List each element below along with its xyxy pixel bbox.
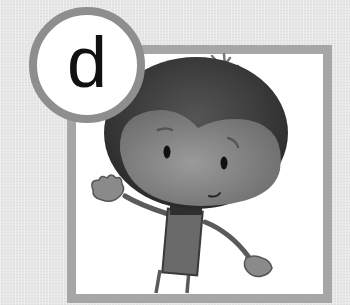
letter-badge: d (29, 7, 145, 123)
badge-letter: d (67, 26, 107, 98)
